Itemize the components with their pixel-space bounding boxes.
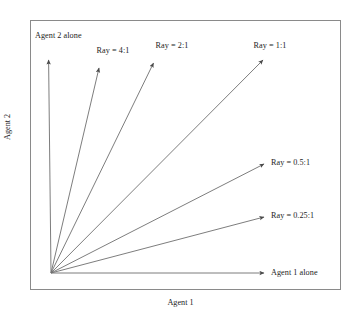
ray-diagram-figure: Agent 2 alone Ray = 4:1 Ray = 2:1 Ray = … — [0, 0, 361, 325]
ray-0point25-to-1 — [51, 217, 264, 273]
ray-agent2-alone — [49, 60, 51, 273]
y-axis-title: Agent 2 — [3, 114, 12, 140]
label-ray-4-1: Ray = 4:1 — [97, 46, 130, 56]
label-agent2-alone: Agent 2 alone — [35, 31, 82, 41]
label-agent1-alone: Agent 1 alone — [271, 268, 318, 278]
ray-0point5-to-1 — [51, 164, 264, 273]
x-axis-title: Agent 1 — [0, 298, 361, 307]
plot-frame — [31, 21, 341, 290]
label-ray-1-1: Ray = 1:1 — [254, 41, 287, 51]
ray-4-to-1 — [51, 68, 99, 273]
label-ray-0point25-1: Ray = 0.25:1 — [271, 211, 314, 221]
ray-2-to-1 — [51, 63, 154, 273]
ray-1-to-1 — [51, 60, 263, 273]
label-ray-0point5-1: Ray = 0.5:1 — [271, 158, 310, 168]
label-ray-2-1: Ray = 2:1 — [156, 41, 189, 51]
